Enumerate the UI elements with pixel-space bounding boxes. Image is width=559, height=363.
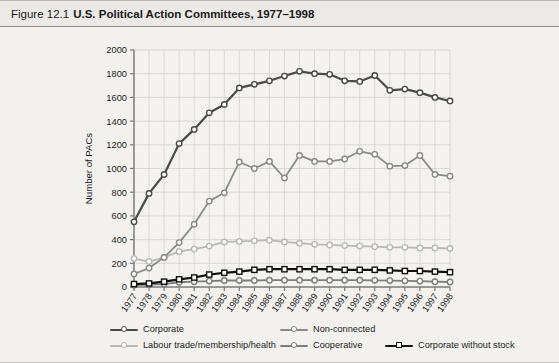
data-point	[357, 277, 362, 282]
data-point	[432, 95, 437, 100]
data-point	[342, 78, 347, 83]
data-point	[342, 267, 347, 272]
data-point	[252, 267, 257, 272]
y-tick-label: 1000	[106, 164, 127, 174]
data-point	[297, 277, 302, 282]
figure-title: Figure 12.1U.S. Political Action Committ…	[11, 8, 314, 20]
data-point	[207, 272, 212, 277]
line-chart-svg: 0200400600800100012001400160018002000Num…	[0, 27, 559, 363]
legend-item-non-connected[interactable]: Non-connected	[280, 324, 375, 335]
legend-label: Corporate	[143, 324, 184, 335]
legend-item-cooperative[interactable]: Cooperative	[280, 340, 363, 351]
figure-title-text: U.S. Political Action Committees, 1977–1…	[73, 8, 314, 20]
data-point	[237, 159, 242, 164]
data-point	[191, 221, 196, 226]
data-point	[447, 246, 452, 251]
legend-item-corporate-without-stock[interactable]: Corporate without stock	[385, 340, 515, 351]
data-point	[222, 239, 227, 244]
data-point	[417, 245, 422, 250]
data-point	[267, 237, 272, 242]
data-point	[252, 166, 257, 171]
y-tick-label: 600	[111, 211, 127, 221]
data-point	[162, 279, 167, 284]
data-point	[417, 153, 422, 158]
data-point	[312, 159, 317, 164]
data-point	[191, 127, 196, 132]
y-tick-label: 1400	[106, 117, 127, 127]
data-point	[387, 268, 392, 273]
data-point	[222, 102, 227, 107]
legend-swatch-icon	[385, 340, 413, 351]
data-point	[237, 85, 242, 90]
data-point	[447, 279, 452, 284]
data-point	[312, 242, 317, 247]
data-point	[177, 277, 182, 282]
data-point	[417, 278, 422, 283]
data-point	[237, 239, 242, 244]
data-point	[282, 277, 287, 282]
data-point	[402, 86, 407, 91]
data-point	[252, 238, 257, 243]
data-point	[267, 267, 272, 272]
figure-title-bar: Figure 12.1U.S. Political Action Committ…	[0, 0, 559, 27]
data-point	[387, 88, 392, 93]
data-point	[372, 152, 377, 157]
data-point	[131, 271, 136, 276]
data-point	[252, 82, 257, 87]
data-point	[357, 149, 362, 154]
data-point	[312, 267, 317, 272]
data-point	[387, 245, 392, 250]
data-point	[327, 267, 332, 272]
data-point	[131, 281, 136, 286]
data-point	[297, 153, 302, 158]
figure-container: Figure 12.1U.S. Political Action Committ…	[0, 0, 559, 363]
y-tick-label: 2000	[106, 45, 127, 55]
legend-swatch-icon	[280, 340, 308, 351]
legend-swatch-icon	[280, 324, 308, 335]
legend-swatch-icon	[110, 324, 138, 335]
legend-swatch-icon	[110, 340, 138, 351]
data-point	[372, 278, 377, 283]
data-point	[131, 219, 136, 224]
data-point	[387, 163, 392, 168]
data-point	[176, 141, 181, 146]
data-point	[282, 175, 287, 180]
data-point	[357, 243, 362, 248]
data-point	[402, 245, 407, 250]
data-point	[146, 259, 151, 264]
data-point	[327, 277, 332, 282]
data-point	[191, 246, 196, 251]
data-point	[297, 240, 302, 245]
data-point	[267, 78, 272, 83]
data-point	[432, 172, 437, 177]
data-point	[237, 269, 242, 274]
data-point	[372, 73, 377, 78]
legend-item-corporate[interactable]: Corporate	[110, 324, 184, 335]
data-point	[267, 159, 272, 164]
data-point	[282, 73, 287, 78]
data-point	[146, 265, 151, 270]
data-point	[372, 244, 377, 249]
data-point	[207, 198, 212, 203]
data-point	[222, 270, 227, 275]
data-point	[161, 255, 166, 260]
data-point	[372, 267, 377, 272]
data-point	[207, 110, 212, 115]
data-point	[447, 174, 452, 179]
y-tick-label: 400	[111, 235, 127, 245]
data-point	[207, 278, 212, 283]
data-point	[402, 163, 407, 168]
legend-label: Cooperative	[313, 340, 363, 351]
chart-plot-area: 0200400600800100012001400160018002000Num…	[0, 27, 559, 363]
data-point	[176, 249, 181, 254]
data-point	[282, 239, 287, 244]
data-point	[342, 277, 347, 282]
data-point	[146, 191, 151, 196]
legend-item-labour-trade-membership-health[interactable]: Labour trade/membership/health	[110, 340, 276, 351]
y-axis-title: Number of PACs	[83, 133, 94, 204]
data-point	[327, 242, 332, 247]
data-point	[357, 267, 362, 272]
legend-label: Non-connected	[313, 324, 375, 335]
data-point	[131, 256, 136, 261]
data-point	[402, 268, 407, 273]
